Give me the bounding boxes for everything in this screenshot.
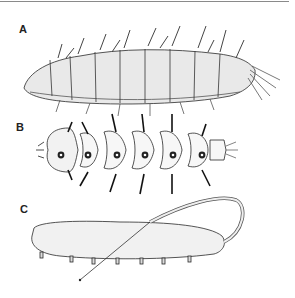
larva-c-illustration bbox=[32, 198, 243, 281]
larva-b-illustration bbox=[36, 114, 238, 194]
larva-a-illustration bbox=[24, 26, 280, 116]
larva-illustrations bbox=[0, 0, 295, 298]
